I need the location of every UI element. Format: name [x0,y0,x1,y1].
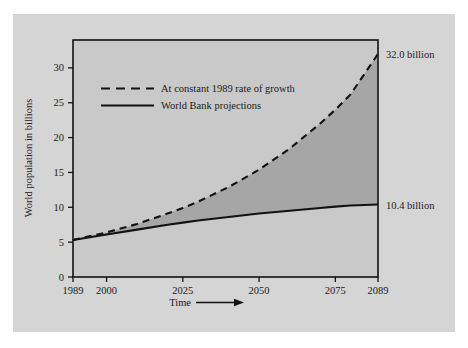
y-axis-tick-label: 25 [54,97,65,108]
y-axis-tick-label: 10 [54,202,65,213]
population-projection-chart: 051015202530 198920002025205020752089 Wo… [13,14,455,332]
annotation-constant-growth-endpoint: 32.0 billion [386,49,435,60]
annotation-world-bank-endpoint: 10.4 billion [386,200,435,211]
y-axis-tick-label: 30 [54,62,65,73]
legend-label-world-bank: World Bank projections [161,100,261,111]
x-axis-tick-label: 2075 [325,285,346,296]
legend-label-constant-growth: At constant 1989 rate of growth [161,83,296,94]
x-axis-tick-label: 2000 [96,285,117,296]
x-axis-title: Time [169,297,191,308]
x-axis-tick-label: 2025 [172,285,193,296]
arrow-right-icon [196,299,244,306]
y-axis-title: World population in billions [23,99,34,217]
y-axis-ticks: 051015202530 [54,62,74,282]
figure-panel: 051015202530 198920002025205020752089 Wo… [13,14,455,332]
y-axis-tick-label: 0 [59,272,64,283]
x-axis-ticks: 198920002025205020752089 [63,277,389,296]
y-axis-tick-label: 5 [59,237,64,248]
x-axis-tick-label: 2089 [368,285,389,296]
y-axis-tick-label: 20 [54,132,65,143]
x-axis-tick-label: 1989 [63,285,84,296]
y-axis-tick-label: 15 [54,167,65,178]
figure-root: 051015202530 198920002025205020752089 Wo… [0,0,468,348]
x-axis-tick-label: 2050 [249,285,270,296]
